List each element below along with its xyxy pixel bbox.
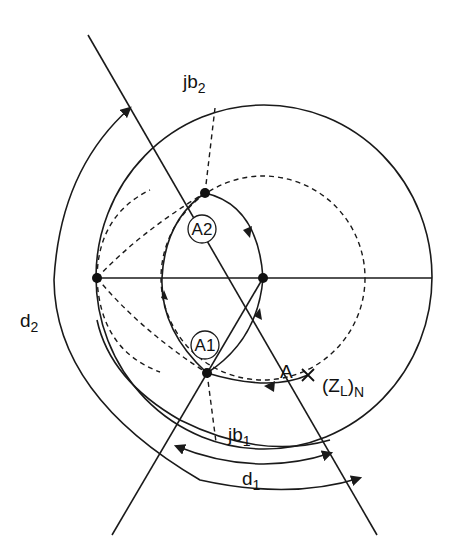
label-jb2: jb2	[182, 71, 206, 96]
point-a2	[200, 188, 210, 198]
point-a1	[202, 368, 212, 378]
radial-line-stub	[112, 278, 263, 535]
arrow-icon	[243, 226, 252, 238]
label-zl-n: (ZL)N	[322, 375, 364, 400]
dashed-arc-left-up	[97, 190, 150, 278]
point-center	[258, 273, 268, 283]
radial-line-load	[88, 35, 377, 535]
label-a: A	[280, 361, 293, 382]
dashed-arc-left-down	[97, 278, 160, 372]
label-a2: A2	[192, 220, 213, 239]
path-a-to-a1	[207, 373, 308, 383]
load-cross-icon	[302, 369, 314, 381]
smith-chart-diagram: A2 A1 jb2 d2 jb1 d1 A (ZL)N	[0, 0, 456, 560]
dashed-tick-top	[205, 108, 215, 193]
label-a1: A1	[195, 336, 216, 355]
label-d2: d2	[20, 310, 39, 335]
point-short	[92, 273, 102, 283]
label-d1: d1	[242, 468, 261, 493]
